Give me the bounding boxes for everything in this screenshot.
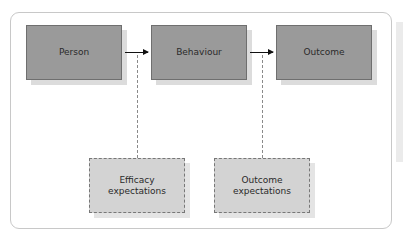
outcome-expectations-label: Outcome expectations bbox=[233, 175, 291, 197]
arrow-behaviour-to-outcome bbox=[250, 52, 273, 53]
behaviour-label: Behaviour bbox=[176, 47, 222, 58]
side-strip bbox=[396, 22, 403, 162]
outcome-expectations-connector bbox=[262, 55, 263, 158]
outcome-label: Outcome bbox=[303, 47, 344, 58]
behaviour-node: Behaviour bbox=[151, 25, 247, 80]
outcome-expectations-node: Outcome expectations bbox=[214, 158, 310, 213]
outcome-node: Outcome bbox=[276, 25, 372, 80]
person-label: Person bbox=[59, 47, 89, 58]
efficacy-expectations-label: Efficacy expectations bbox=[108, 175, 166, 197]
efficacy-connector bbox=[137, 55, 138, 158]
arrow-person-to-behaviour bbox=[125, 52, 148, 53]
efficacy-expectations-node: Efficacy expectations bbox=[89, 158, 185, 213]
person-node: Person bbox=[26, 25, 122, 80]
